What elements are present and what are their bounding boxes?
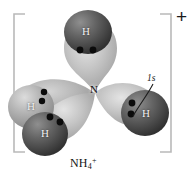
charge-bracket-right — [160, 14, 171, 152]
hydrogen-sphere-top — [64, 10, 112, 54]
diagram-canvas — [0, 0, 196, 178]
hydrogen-sphere-left-front — [22, 112, 68, 156]
ammonium-ion-orbital-diagram: H H H H N 1s NH4+ + — [0, 0, 196, 178]
